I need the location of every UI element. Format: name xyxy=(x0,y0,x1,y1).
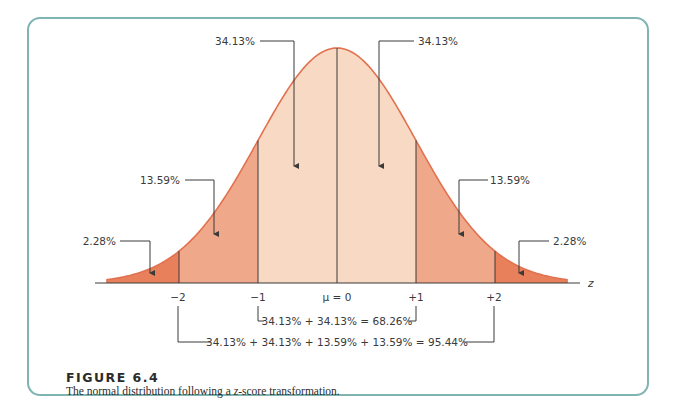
sum-68-label: 34.13% + 34.13% = 68.26% xyxy=(261,315,412,327)
label-mid-left: 13.59% xyxy=(140,174,180,186)
caption-text-end: -score transformation. xyxy=(238,385,340,397)
label-center-left: 34.13% xyxy=(215,35,255,47)
label-mid-right: 13.59% xyxy=(490,174,530,186)
x-axis-label: z xyxy=(587,277,594,289)
tick-label-mean: μ = 0 xyxy=(323,291,352,303)
label-center-right: 34.13% xyxy=(418,35,458,47)
figure-caption: The normal distribution following a z-sc… xyxy=(66,385,340,397)
sum-95-label: 34.13% + 34.13% + 13.59% + 13.59% = 95.4… xyxy=(206,336,468,348)
caption-text: The normal distribution following a xyxy=(66,385,234,397)
normal-distribution-chart: z −2 −1 μ = 0 +1 +2 34.13% 34.13% 13.59%… xyxy=(0,0,679,410)
label-tail-right: 2.28% xyxy=(553,235,586,247)
figure-title: FIGURE 6.4 xyxy=(66,370,159,385)
tick-label-plus-2: +2 xyxy=(486,291,501,303)
tick-label-minus-1: −1 xyxy=(250,291,265,303)
arrow-tail-left xyxy=(120,241,150,273)
tick-label-plus-1: +1 xyxy=(408,291,423,303)
tick-label-minus-2: −2 xyxy=(170,291,185,303)
label-tail-left: 2.28% xyxy=(83,235,116,247)
